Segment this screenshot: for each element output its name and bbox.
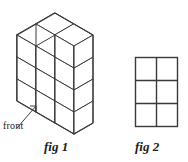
- figure-canvas: front fig 1 fig 2: [0, 0, 188, 162]
- fig2-rectangle-grid: [0, 0, 188, 140]
- fig1-caption: fig 1: [44, 139, 68, 155]
- fig2-caption: fig 2: [135, 139, 159, 155]
